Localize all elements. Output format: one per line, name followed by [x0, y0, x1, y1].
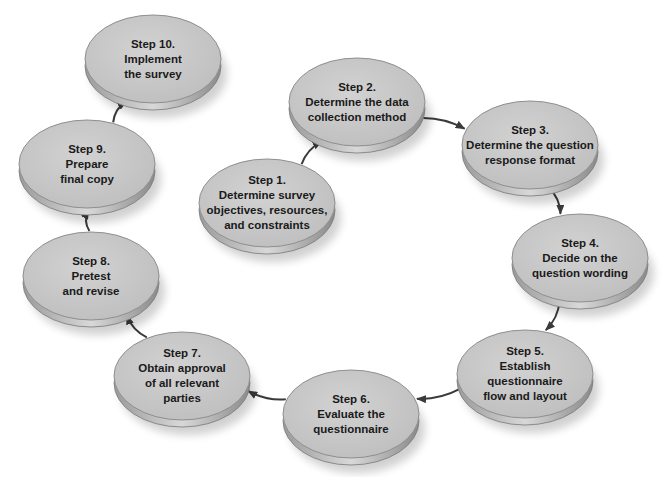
step-description-line: questionnaire — [283, 422, 419, 437]
node-label-step2: Step 2.Determine the datacollection meth… — [289, 80, 425, 125]
step-description-line: response format — [462, 153, 598, 168]
survey-design-cycle-diagram: Step 1.Determine surveyobjectives, resou… — [0, 0, 668, 477]
step-description-line: and constraints — [199, 218, 335, 233]
step-description-line: question wording — [512, 266, 648, 281]
step-description-line: Evaluate the — [283, 407, 419, 422]
node-label-step6: Step 6.Evaluate thequestionnaire — [283, 392, 419, 437]
arrow-step5-to-step6 — [417, 389, 460, 399]
step-description-line: and revise — [23, 284, 159, 299]
node-label-step9: Step 9.Preparefinal copy — [19, 142, 155, 187]
step-description-line: final copy — [19, 172, 155, 187]
step-description-line: Determine survey — [199, 188, 335, 203]
step-title: Step 2. — [289, 80, 425, 95]
node-label-step7: Step 7.Obtain approvalof all relevantpar… — [114, 346, 250, 406]
step-description-line: Establish — [457, 359, 593, 374]
step-title: Step 3. — [462, 123, 598, 138]
step-description-line: of all relevant — [114, 376, 250, 391]
step-title: Step 7. — [114, 346, 250, 361]
step-title: Step 4. — [512, 236, 648, 251]
node-label-step5: Step 5.Establishquestionnaireflow and la… — [457, 344, 593, 404]
step-title: Step 6. — [283, 392, 419, 407]
step-description-line: collection method — [289, 110, 425, 125]
step-title: Step 9. — [19, 142, 155, 157]
step-description-line: Determine the data — [289, 95, 425, 110]
step-description-line: Obtain approval — [114, 361, 250, 376]
node-label-step1: Step 1.Determine surveyobjectives, resou… — [199, 173, 335, 233]
node-label-step8: Step 8.Pretestand revise — [23, 254, 159, 299]
step-title: Step 1. — [199, 173, 335, 188]
node-label-step4: Step 4.Decide on thequestion wording — [512, 236, 648, 281]
step-description-line: Decide on the — [512, 251, 648, 266]
step-description-line: the survey — [85, 67, 221, 82]
step-title: Step 5. — [457, 344, 593, 359]
step-description-line: Pretest — [23, 269, 159, 284]
step-description-line: Determine the question — [462, 138, 598, 153]
step-description-line: flow and layout — [457, 389, 593, 404]
step-description-line: Implement — [85, 52, 221, 67]
step-description-line: questionnaire — [457, 374, 593, 389]
node-label-step3: Step 3.Determine the questionresponse fo… — [462, 123, 598, 168]
step-description-line: parties — [114, 391, 250, 406]
step-title: Step 8. — [23, 254, 159, 269]
step-title: Step 10. — [85, 37, 221, 52]
step-description-line: Prepare — [19, 157, 155, 172]
step-description-line: objectives, resources, — [199, 203, 335, 218]
node-label-step10: Step 10.Implementthe survey — [85, 37, 221, 82]
